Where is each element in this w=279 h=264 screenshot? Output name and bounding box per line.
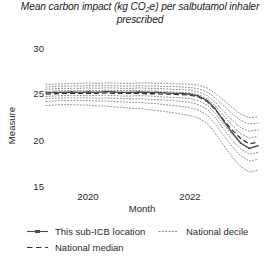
data-point [155,92,157,94]
ytick-label-30: 30 [20,43,44,54]
data-point [206,100,208,102]
data-point [121,92,123,94]
series-line-national-decile-30 [46,98,258,154]
data-point [138,91,140,93]
xtick-label-2020: 2020 [64,191,112,202]
data-point [198,95,200,97]
legend-key-dashed-icon [26,242,49,253]
data-point [105,91,107,93]
ytick-label-25: 25 [20,88,44,99]
legend-item-national-median[interactable]: National median [26,242,124,253]
data-point [181,92,183,94]
legend-label-this-sub-icb-location: This sub-ICB location [55,226,145,237]
plot-area [0,0,279,264]
data-point [113,91,115,93]
data-point [87,91,89,93]
data-point [71,91,73,93]
data-point [54,92,56,94]
data-point [189,93,191,95]
xtick-label-2022: 2022 [166,191,214,202]
legend-key-dotted-icon [157,226,180,237]
legend-item-national-decile[interactable]: National decile [157,226,248,237]
data-point [62,92,64,94]
ytick-label-15: 15 [20,181,44,192]
data-point [232,132,234,134]
series-layer [45,83,259,172]
data-point [172,92,174,94]
data-point [147,92,149,94]
data-point [45,92,47,94]
x-axis-title: Month [82,203,202,214]
legend-key-solid-marker-icon [26,226,49,237]
ytick-label-20: 20 [20,135,44,146]
data-point [214,108,216,110]
legend-item-this-sub-icb-location[interactable]: This sub-ICB location [26,226,145,237]
data-point [79,92,81,94]
data-point [96,92,98,94]
data-point [130,92,132,94]
chart-container: Mean carbon impact (kg CO2e) per salbuta… [0,0,279,264]
data-point [257,145,259,147]
data-point [240,142,242,144]
y-axis-title: Measure [6,96,17,156]
legend-label-national-median: National median [55,242,124,253]
data-point [164,92,166,94]
legend-label-national-decile: National decile [186,226,248,237]
data-point [223,120,225,122]
data-point [248,148,250,150]
